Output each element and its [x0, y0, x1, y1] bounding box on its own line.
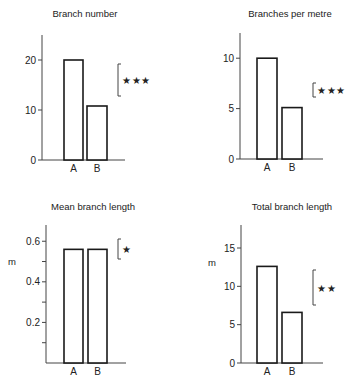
y-axis-label: m — [208, 257, 216, 268]
bar-a — [257, 266, 277, 363]
chart-title: Branch number — [53, 8, 118, 19]
bar-b — [282, 312, 302, 363]
y-tick-label: 5 — [229, 319, 235, 330]
y-tick-label: 10 — [25, 105, 37, 116]
x-category-label: A — [70, 366, 77, 377]
y-tick-label: 5 — [228, 103, 234, 114]
x-category-label: A — [264, 366, 271, 377]
chart-branch-number: Branch number01020AB★★★ — [25, 8, 151, 174]
chart-branches-per-metre: Branches per metre0510AB★★★ — [223, 8, 346, 173]
x-category-label: B — [94, 163, 101, 174]
x-category-label: B — [94, 366, 101, 377]
x-category-label: B — [289, 366, 296, 377]
y-tick-label: 15 — [224, 243, 236, 254]
y-tick-label: 0 — [30, 155, 36, 166]
y-tick-label: 10 — [224, 281, 236, 292]
bar-b — [87, 106, 107, 160]
significance-stars: ★★★ — [122, 75, 151, 86]
figure-canvas: Branch number01020AB★★★ Branches per met… — [0, 0, 348, 387]
significance-bracket — [313, 270, 316, 305]
bar-a — [64, 249, 83, 363]
y-tick-label: 0 — [229, 358, 235, 369]
y-tick-label: 20 — [25, 55, 37, 66]
chart-title: Branches per metre — [248, 8, 331, 19]
x-category-label: B — [289, 162, 296, 173]
chart-total-branch-length: Total branch length051015mAB★★ — [208, 201, 336, 377]
y-tick-label: 0 — [228, 154, 234, 165]
chart-title: Mean branch length — [51, 201, 135, 212]
significance-bracket — [118, 64, 121, 96]
y-tick-label: 0.4 — [26, 276, 40, 287]
significance-bracket — [118, 239, 121, 259]
chart-title: Total branch length — [252, 201, 332, 212]
bar-b — [282, 108, 302, 159]
y-tick-label: 10 — [223, 53, 235, 64]
significance-stars: ★ — [122, 244, 132, 255]
significance-stars: ★★ — [317, 283, 336, 294]
significance-stars: ★★★ — [317, 85, 346, 96]
bar-a — [257, 58, 277, 159]
y-axis-label: m — [8, 256, 16, 267]
y-tick-label: 0.6 — [26, 236, 40, 247]
bar-b — [88, 249, 107, 363]
x-category-label: A — [70, 163, 77, 174]
bar-a — [64, 60, 83, 160]
significance-bracket — [313, 83, 316, 97]
x-category-label: A — [264, 162, 271, 173]
chart-mean-branch-length: Mean branch length0.20.40.6mAB★ — [8, 201, 135, 377]
y-tick-label: 0.2 — [26, 317, 40, 328]
